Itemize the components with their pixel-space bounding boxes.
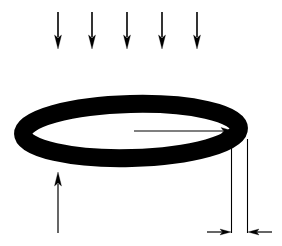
ring-load-diagram: Ring loaded by downward distributed forc… [0, 0, 282, 246]
diagram-canvas: Ring loaded by downward distributed forc… [0, 0, 282, 246]
